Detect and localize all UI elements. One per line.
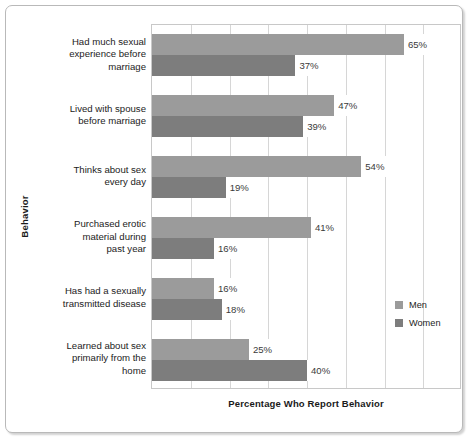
category-label-line: Lived with spouse bbox=[30, 103, 146, 115]
category-label: Had much sexualexperience beforemarriage bbox=[30, 36, 146, 73]
bar-women bbox=[152, 55, 295, 76]
category-label-line: transmitted disease bbox=[30, 298, 146, 310]
bar-value-label: 25% bbox=[249, 339, 275, 360]
bar-men bbox=[152, 217, 311, 238]
bar-women bbox=[152, 299, 222, 320]
bar-women bbox=[152, 177, 226, 198]
category-label-line: home bbox=[30, 365, 146, 377]
plot-area: 65%37%47%39%54%19%41%16%16%18%25%40% Men… bbox=[151, 24, 461, 389]
gridline bbox=[307, 25, 308, 388]
x-axis-title: Percentage Who Report Behavior bbox=[151, 398, 461, 409]
category-label-column: Had much sexualexperience beforemarriage… bbox=[30, 24, 146, 389]
category-label: Thinks about sexevery day bbox=[30, 164, 146, 189]
legend-swatch-icon bbox=[395, 319, 403, 327]
bar-value-label: 18% bbox=[222, 299, 248, 320]
bar-men bbox=[152, 34, 404, 55]
bar-men bbox=[152, 156, 361, 177]
gridline bbox=[230, 25, 231, 388]
category-label-line: Learned about sex bbox=[30, 340, 146, 352]
bar-value-label: 47% bbox=[334, 95, 360, 116]
legend-item-men[interactable]: Men bbox=[395, 297, 457, 312]
gridline bbox=[268, 25, 269, 388]
category-label-line: marriage bbox=[30, 61, 146, 73]
category-label-line: past year bbox=[30, 243, 146, 255]
legend-item-women[interactable]: Women bbox=[395, 315, 457, 330]
category-label-line: Had much sexual bbox=[30, 36, 146, 48]
category-label: Has had a sexuallytransmitted disease bbox=[30, 285, 146, 310]
category-label-line: Has had a sexually bbox=[30, 285, 146, 297]
category-label-line: every day bbox=[30, 176, 146, 188]
category-label-line: before marriage bbox=[30, 115, 146, 127]
bar-women bbox=[152, 116, 303, 137]
legend-label: Women bbox=[409, 318, 441, 328]
chart-figure: Behavior Had much sexualexperience befor… bbox=[5, 5, 463, 433]
category-label-line: Purchased erotic bbox=[30, 218, 146, 230]
bar-value-label: 65% bbox=[404, 34, 430, 55]
bar-value-label: 41% bbox=[311, 217, 337, 238]
bar-value-label: 40% bbox=[307, 360, 333, 381]
chart-legend: MenWomen bbox=[395, 297, 457, 333]
bar-value-label: 16% bbox=[214, 278, 240, 299]
category-label: Learned about sexprimarily from thehome bbox=[30, 340, 146, 377]
bar-value-label: 37% bbox=[295, 55, 321, 76]
gridline bbox=[346, 25, 347, 388]
bar-men bbox=[152, 339, 249, 360]
bar-women bbox=[152, 238, 214, 259]
y-axis-title-text: Behavior bbox=[19, 195, 30, 237]
category-label-line: material during bbox=[30, 231, 146, 243]
legend-label: Men bbox=[409, 300, 427, 310]
bar-men bbox=[152, 278, 214, 299]
bar-value-label: 54% bbox=[361, 156, 387, 177]
category-label-line: Thinks about sex bbox=[30, 164, 146, 176]
category-label: Purchased eroticmaterial duringpast year bbox=[30, 218, 146, 255]
category-label-line: experience before bbox=[30, 48, 146, 60]
bar-value-label: 39% bbox=[303, 116, 329, 137]
legend-swatch-icon bbox=[395, 301, 403, 309]
bar-men bbox=[152, 95, 334, 116]
bar-value-label: 16% bbox=[214, 238, 240, 259]
gridline bbox=[191, 25, 192, 388]
gridline bbox=[385, 25, 386, 388]
category-label: Lived with spousebefore marriage bbox=[30, 103, 146, 128]
bar-women bbox=[152, 360, 307, 381]
category-label-line: primarily from the bbox=[30, 352, 146, 364]
bar-value-label: 19% bbox=[226, 177, 252, 198]
gridline bbox=[423, 25, 424, 388]
